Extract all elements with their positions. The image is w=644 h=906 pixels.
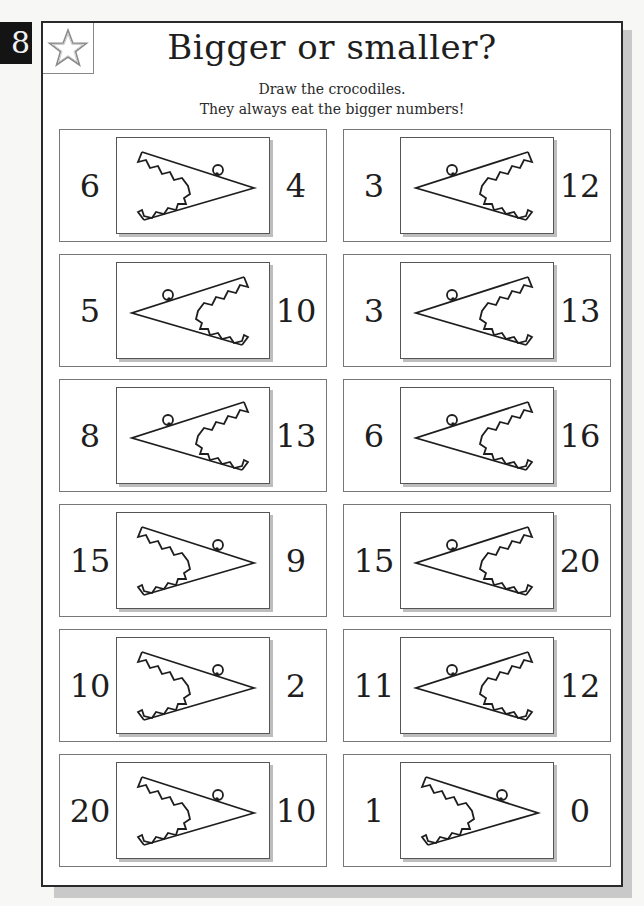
crocodile-drawing-box[interactable]: [116, 262, 270, 359]
crocodile-drawing-box[interactable]: [116, 137, 270, 234]
crocodile-drawing-box[interactable]: [400, 637, 554, 734]
right-number: 0: [554, 792, 606, 830]
right-number: 13: [270, 417, 322, 455]
crocodile-drawing-box[interactable]: [400, 137, 554, 234]
comparison-grid: 6 4 3: [59, 129, 611, 867]
comparison-item-11: 20 10: [59, 754, 327, 867]
crocodile-drawing-box[interactable]: [116, 387, 270, 484]
comparison-item-7: 15 9: [59, 504, 327, 617]
comparison-item-8: 15 20: [343, 504, 611, 617]
left-number: 5: [64, 292, 116, 330]
crocodile-drawing-box[interactable]: [400, 387, 554, 484]
right-number: 4: [270, 167, 322, 205]
right-number: 10: [270, 792, 322, 830]
right-number: 12: [554, 167, 606, 205]
left-number: 20: [64, 792, 116, 830]
left-number: 6: [348, 417, 400, 455]
right-number: 12: [554, 667, 606, 705]
instructions: Draw the crocodiles. They always eat the…: [43, 79, 621, 119]
comparison-item-6: 6 16: [343, 379, 611, 492]
crocodile-mouth-open-right-icon: [404, 642, 550, 730]
instruction-line-1: Draw the crocodiles.: [43, 79, 621, 99]
worksheet: Bigger or smaller? Draw the crocodiles. …: [41, 21, 623, 887]
crocodile-drawing-box[interactable]: [400, 262, 554, 359]
crocodile-mouth-open-left-icon: [120, 767, 266, 855]
crocodile-drawing-box[interactable]: [116, 762, 270, 859]
right-number: 16: [554, 417, 606, 455]
left-number: 6: [64, 167, 116, 205]
comparison-item-9: 10 2: [59, 629, 327, 742]
comparison-item-12: 1 0: [343, 754, 611, 867]
comparison-item-1: 6 4: [59, 129, 327, 242]
left-number: 1: [348, 792, 400, 830]
crocodile-mouth-open-right-icon: [404, 142, 550, 230]
right-number: 20: [554, 542, 606, 580]
crocodile-drawing-box[interactable]: [116, 637, 270, 734]
comparison-item-3: 5 10: [59, 254, 327, 367]
left-number: 3: [348, 292, 400, 330]
crocodile-drawing-box[interactable]: [400, 762, 554, 859]
crocodile-mouth-open-right-icon: [404, 392, 550, 480]
crocodile-drawing-box[interactable]: [400, 512, 554, 609]
crocodile-drawing-box[interactable]: [116, 512, 270, 609]
crocodile-mouth-open-right-icon: [120, 392, 266, 480]
crocodile-mouth-open-left-icon: [120, 142, 266, 230]
crocodile-mouth-open-right-icon: [404, 267, 550, 355]
page-number: 8: [11, 25, 30, 60]
comparison-item-10: 11 12: [343, 629, 611, 742]
crocodile-mouth-open-left-icon: [404, 767, 550, 855]
page-title: Bigger or smaller?: [43, 27, 621, 67]
crocodile-mouth-open-left-icon: [120, 517, 266, 605]
right-number: 10: [270, 292, 322, 330]
crocodile-mouth-open-right-icon: [404, 517, 550, 605]
left-number: 15: [64, 542, 116, 580]
left-number: 15: [348, 542, 400, 580]
comparison-item-2: 3 12: [343, 129, 611, 242]
right-number: 13: [554, 292, 606, 330]
right-number: 9: [270, 542, 322, 580]
left-number: 8: [64, 417, 116, 455]
crocodile-mouth-open-right-icon: [120, 267, 266, 355]
right-number: 2: [270, 667, 322, 705]
left-number: 3: [348, 167, 400, 205]
left-number: 10: [64, 667, 116, 705]
comparison-item-5: 8 13: [59, 379, 327, 492]
left-number: 11: [348, 667, 400, 705]
instruction-line-2: They always eat the bigger numbers!: [43, 99, 621, 119]
crocodile-mouth-open-left-icon: [120, 642, 266, 730]
comparison-item-4: 3 13: [343, 254, 611, 367]
page-number-badge: 8: [0, 22, 32, 64]
